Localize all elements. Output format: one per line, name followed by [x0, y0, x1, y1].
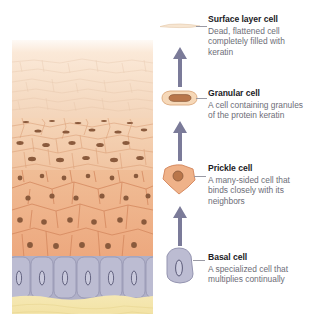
- arrow-up-prickle: [170, 205, 190, 247]
- legend-title-basal-cell: Basal cell: [208, 252, 311, 263]
- legend-description-surface-layer-cell: Dead, flattened cell completely filled w…: [208, 26, 311, 58]
- basal-cells: [12, 257, 153, 298]
- basal-cell-icon: [158, 246, 202, 286]
- epidermis-illustration: [12, 0, 153, 328]
- prickle-cell-icon: [158, 163, 202, 195]
- arrow-up-granular: [170, 120, 190, 162]
- leader-line-basal-cell: [193, 260, 205, 261]
- surface-layer: [12, 36, 153, 128]
- legend-text-prickle-cell: Prickle cell A many-sided cell that bind…: [208, 163, 311, 206]
- legend-text-basal-cell: Basal cell A specialized cell that multi…: [208, 252, 311, 285]
- legend-text-granular-cell: Granular cell A cell containing granules…: [208, 88, 311, 121]
- legend-description-prickle-cell: A many-sided cell that binds closely wit…: [208, 175, 311, 207]
- legend-text-surface-layer-cell: Surface layer cell Dead, flattened cell …: [208, 14, 311, 57]
- legend-title-prickle-cell: Prickle cell: [208, 163, 311, 174]
- legend-column: Surface layer cell Dead, flattened cell …: [156, 0, 311, 328]
- leader-line-surface-layer-cell: [196, 26, 207, 27]
- arrow-up-surface: [170, 46, 190, 88]
- legend-title-surface-layer-cell: Surface layer cell: [208, 14, 311, 25]
- leader-line-granular-cell: [196, 98, 207, 99]
- leader-line-prickle-cell: [194, 176, 206, 177]
- legend-title-granular-cell: Granular cell: [208, 88, 311, 99]
- legend-description-granular-cell: A cell containing granules of the protei…: [208, 100, 311, 121]
- epidermis-slab: [12, 36, 153, 320]
- legend-description-basal-cell: A specialized cell that multiplies conti…: [208, 264, 311, 285]
